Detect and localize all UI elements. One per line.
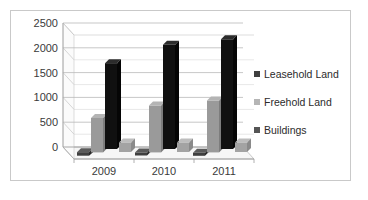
y-tick-label: 2000 (34, 42, 58, 54)
bar-2011-freehold-land (207, 97, 223, 153)
bar-2010-freehold-land (149, 102, 165, 153)
y-tick-label: 2500 (34, 17, 58, 29)
legend-item-buildings: Buildings (254, 119, 354, 141)
bar-2010-buildings (163, 41, 179, 149)
y-tick-label: 1500 (34, 67, 58, 79)
legend-item-leasehold-land: Leasehold Land (254, 63, 354, 85)
legend-swatch-icon (254, 99, 260, 105)
y-tick-label: 500 (40, 116, 58, 128)
bar-2009-buildings (105, 59, 121, 149)
bar-2011-buildings (221, 35, 237, 149)
y-tick-label: 1000 (34, 91, 58, 103)
x-tick-label-2009: 2009 (92, 165, 116, 177)
chart-frame: 2500 2000 1500 1000 500 0 (10, 10, 351, 181)
x-tick-label-2011: 2011 (212, 165, 236, 177)
legend-swatch-icon (254, 127, 260, 133)
y-tick-label: 0 (52, 141, 58, 153)
legend-label: Freehold Land (264, 97, 332, 108)
bar-2009-buildings-depth (119, 139, 135, 153)
bar-2009-freehold-land (91, 114, 107, 152)
legend-label: Buildings (264, 125, 307, 136)
bar-2011-buildings-depth (235, 139, 251, 153)
chart-left-wall (63, 23, 74, 159)
legend-item-freehold-land: Freehold Land (254, 91, 354, 113)
legend-label: Leasehold Land (264, 69, 339, 80)
chart-legend: Leasehold Land Freehold Land Buildings (254, 63, 354, 147)
bar-2010-buildings-depth (177, 139, 193, 153)
legend-swatch-icon (254, 71, 260, 77)
x-tick-label-2010: 2010 (152, 165, 176, 177)
